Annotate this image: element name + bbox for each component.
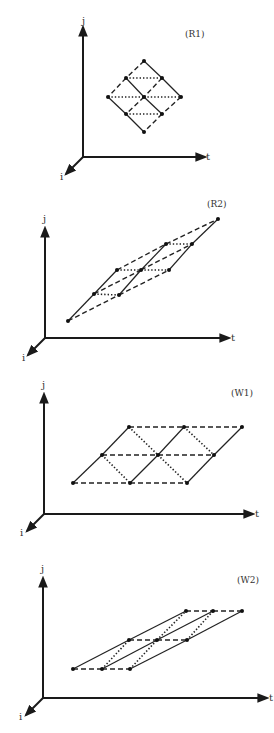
solid-edge <box>73 640 129 669</box>
lattice-point <box>117 293 121 297</box>
dashed-edge <box>126 61 144 78</box>
lattice-point <box>212 453 216 457</box>
j-axis-label: j <box>41 379 45 390</box>
lattice-point <box>106 95 110 99</box>
t-axis-label: t <box>269 692 273 703</box>
solid-edge <box>130 455 158 483</box>
j-axis-label: j <box>42 213 46 224</box>
solid-edge <box>192 219 218 244</box>
solid-edge <box>158 427 184 455</box>
solid-edge <box>68 294 94 321</box>
axes: jti <box>22 213 235 363</box>
lattice-point <box>92 292 96 296</box>
dashed-edge <box>119 270 169 295</box>
panel-w1: (W1) jti <box>20 379 259 538</box>
axes: jti <box>19 563 273 722</box>
i-axis <box>26 698 43 715</box>
dashed-edge <box>126 97 144 114</box>
solid-edge <box>102 640 157 669</box>
dashed-edge <box>162 97 181 114</box>
solid-edge <box>169 244 192 270</box>
panel-label-r1: (R1) <box>185 29 205 39</box>
dashed-edge <box>94 270 141 294</box>
dotted-edge <box>129 427 158 455</box>
axes: jti <box>60 15 210 182</box>
lattice-point <box>240 425 244 429</box>
j-axis-label: j <box>40 563 44 574</box>
j-axis-label: j <box>81 15 85 26</box>
lattice-point <box>216 217 220 221</box>
dotted-edge <box>102 640 129 669</box>
t-axis-label: t <box>255 508 259 519</box>
dashed-edge <box>108 78 126 97</box>
lattice-point <box>115 268 119 272</box>
i-axis-label: i <box>20 527 23 538</box>
solid-edge <box>141 244 166 270</box>
solid-edge <box>157 611 213 640</box>
lattice-point <box>139 268 143 272</box>
t-axis-label: t <box>206 151 210 162</box>
lattice-point <box>184 609 188 613</box>
panel-label-r2: (R2) <box>207 199 227 209</box>
diagram-canvas: (R1) jti (R2) jti (W1) jti (W2) jti <box>0 0 274 733</box>
i-axis-label: i <box>19 711 22 722</box>
lattice-point <box>190 242 194 246</box>
solid-edge <box>144 61 162 78</box>
t-axis-label: t <box>231 332 235 343</box>
lattice-point <box>124 112 128 116</box>
i-axis <box>27 514 44 531</box>
solid-edge <box>94 270 117 294</box>
solid-edge <box>129 611 186 640</box>
lattice-point <box>156 453 160 457</box>
dotted-edge <box>157 611 186 640</box>
panel-r2: (R2) jti <box>22 199 235 363</box>
lattice-point <box>127 638 131 642</box>
lattice-point <box>71 667 75 671</box>
panel-w2: (W2) jti <box>19 563 273 722</box>
lattice-point <box>160 112 164 116</box>
solid-edge <box>187 455 214 483</box>
dotted-edge <box>102 455 130 483</box>
dotted-edge <box>158 455 187 483</box>
lattice-point <box>71 481 75 485</box>
lattice-point <box>128 481 132 485</box>
solid-edge <box>108 97 126 114</box>
lattice-point <box>100 453 104 457</box>
i-axis <box>28 338 45 355</box>
dotted-edge <box>94 294 119 295</box>
lattice-point <box>155 638 159 642</box>
solid-edge <box>126 114 144 132</box>
dashed-edge <box>68 295 119 321</box>
solid-edge <box>214 427 242 455</box>
solid-edge <box>126 78 144 97</box>
panel-r1: (R1) jti <box>60 15 210 182</box>
lattice-point <box>142 59 146 63</box>
i-axis <box>66 157 83 174</box>
lattice-point <box>142 130 146 134</box>
solid-edge <box>119 270 141 295</box>
solid-edge <box>73 455 102 483</box>
axes: jti <box>20 379 259 538</box>
solid-edge <box>130 640 187 669</box>
panel-label-w1: (W1) <box>231 388 253 398</box>
dotted-edge <box>184 427 214 455</box>
lattice-point <box>179 95 183 99</box>
lattice-point <box>185 481 189 485</box>
i-axis-label: i <box>60 171 63 182</box>
dotted-edge <box>187 611 213 640</box>
lattice-point <box>100 667 104 671</box>
lattice-point <box>185 638 189 642</box>
lattice-point <box>160 76 164 80</box>
dashed-edge <box>166 219 218 244</box>
lattice-point <box>124 76 128 80</box>
lattice-point <box>66 319 70 323</box>
dotted-edge <box>130 640 157 669</box>
lattice-point <box>128 667 132 671</box>
solid-edge <box>102 427 129 455</box>
lattice-point <box>167 268 171 272</box>
dashed-edge <box>117 244 166 270</box>
lattice-point <box>211 609 215 613</box>
lattice-point <box>182 425 186 429</box>
lattice-point <box>142 95 146 99</box>
solid-edge <box>187 611 242 640</box>
